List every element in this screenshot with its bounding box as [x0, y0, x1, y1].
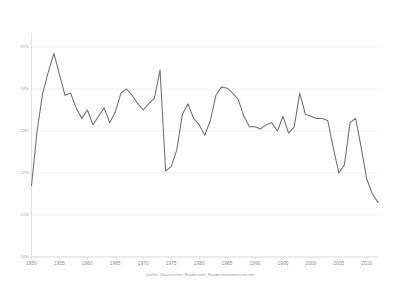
y-tick-label: 25% [21, 45, 29, 49]
x-tick-label: 2005 [333, 261, 344, 266]
x-tick-label: 1990 [250, 261, 261, 266]
x-tick-label: 1980 [194, 261, 205, 266]
y-tick-label: 23% [21, 129, 29, 133]
x-tick-label: 1960 [82, 261, 93, 266]
series-line [32, 53, 379, 202]
x-tick-label: 2010 [361, 261, 372, 266]
x-axis [32, 257, 379, 259]
chart-container: 25%24%23%22%21%20% 195019551960196519701… [0, 0, 401, 291]
x-tick-label: 1970 [138, 261, 149, 266]
x-tick-label: 1955 [54, 261, 65, 266]
x-tick-label: 1975 [166, 261, 177, 266]
source-caption: Quelle: Statistisches Bundesamt, Bundesf… [146, 272, 254, 277]
series-lines [32, 53, 379, 202]
x-tick-label: 1995 [277, 261, 288, 266]
x-tick-label: 1950 [26, 261, 37, 266]
y-tick-label: 24% [21, 87, 29, 91]
y-tick-label: 21% [21, 213, 29, 217]
x-tick-label: 1965 [110, 261, 121, 266]
plot-area: 25%24%23%22%21%20% 195019551960196519701… [0, 0, 401, 291]
line-chart-svg: 25%24%23%22%21%20% 195019551960196519701… [0, 0, 401, 291]
x-tick-label: 1985 [222, 261, 233, 266]
x-tick-labels: 1950195519601965197019751980198519901995… [26, 261, 373, 266]
y-tick-labels: 25%24%23%22%21%20% [21, 45, 29, 259]
x-tick-label: 2000 [305, 261, 316, 266]
gridlines [32, 47, 379, 257]
y-tick-label: 22% [21, 171, 29, 175]
y-tick-label: 20% [21, 255, 29, 259]
